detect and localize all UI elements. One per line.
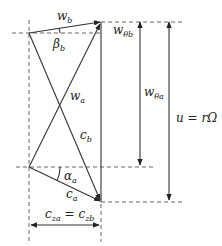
label-w-theta-b: wθb bbox=[113, 23, 133, 39]
label-cz: cza = czb bbox=[45, 207, 94, 223]
label-w-theta-a: wθa bbox=[144, 85, 164, 101]
vector-w-b bbox=[29, 22, 100, 33]
label-w-a: wa bbox=[70, 89, 85, 105]
label-u: u = rΩ bbox=[176, 111, 217, 125]
velocity-triangle-diagram: wb wθb βb wa wθa u = rΩ cb αa ca cza = c… bbox=[0, 0, 222, 246]
label-alpha-a: αa bbox=[64, 169, 77, 185]
label-w-b: wb bbox=[57, 9, 72, 25]
label-beta-b: βb bbox=[52, 37, 65, 53]
label-c-b: cb bbox=[80, 128, 92, 144]
angle-arc-alpha bbox=[57, 167, 60, 181]
